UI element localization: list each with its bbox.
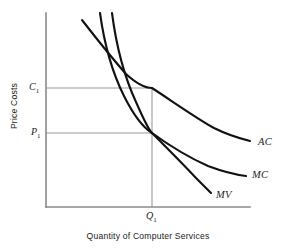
cost-curves-figure: Price Costs Quantity of Computer Service… <box>0 0 296 248</box>
x-tick-q1-sub: 1 <box>153 216 157 224</box>
y-tick-c1: C1 <box>29 82 39 95</box>
curve-mc <box>100 13 246 176</box>
y-axis-label: Price Costs <box>9 71 19 141</box>
y-tick-c1-base: C <box>29 81 36 92</box>
curve-label-mv: MV <box>216 190 232 201</box>
x-tick-q1: Q1 <box>146 211 157 224</box>
y-tick-c1-sub: 1 <box>36 87 40 95</box>
curve-label-mc: MC <box>252 170 268 181</box>
y-tick-p1: P1 <box>31 127 41 140</box>
curve-label-ac: AC <box>258 137 272 148</box>
y-tick-p1-sub: 1 <box>37 132 41 140</box>
curve-ac <box>82 20 250 141</box>
x-axis-label: Quantity of Computer Services <box>46 231 250 241</box>
